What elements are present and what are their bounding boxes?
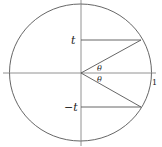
- label-theta-upper: θ: [97, 64, 102, 73]
- label-t: t: [71, 34, 76, 47]
- unit-circle-diagram: t −t θ θ 1: [0, 0, 162, 147]
- lower-ray: [81, 73, 141, 107]
- label-theta-lower: θ: [97, 75, 102, 84]
- upper-ray: [81, 40, 141, 73]
- label-radius-one: 1: [152, 78, 157, 87]
- unit-circle: [10, 4, 152, 141]
- label-minus-t: −t: [64, 101, 78, 114]
